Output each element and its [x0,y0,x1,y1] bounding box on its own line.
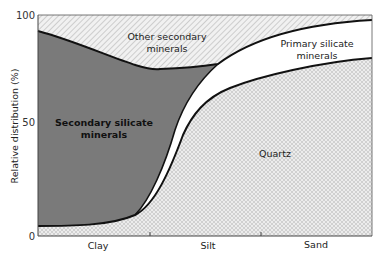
label-secondary-silicate-line1: Secondary silicate [55,117,153,128]
label-primary-silicate-line1: Primary silicate [280,38,353,49]
y-tick-label-0: 0 [29,231,35,242]
y-tick-label-100: 100 [16,10,35,21]
label-quartz: Quartz [259,148,291,159]
label-primary-silicate-line2: minerals [296,50,337,61]
x-label-silt: Silt [200,240,215,251]
x-label-clay: Clay [88,240,109,251]
soil-mineral-distribution-chart: 100 50 0 Relative distribution (%) Clay … [0,0,378,257]
label-other-secondary-line1: Other secondary [127,31,207,42]
y-tick-label-50: 50 [22,117,35,128]
y-axis-label: Relative distribution (%) [9,69,20,184]
label-other-secondary-line2: minerals [146,43,187,54]
label-secondary-silicate-line2: minerals [81,129,128,140]
x-label-sand: Sand [304,239,328,250]
